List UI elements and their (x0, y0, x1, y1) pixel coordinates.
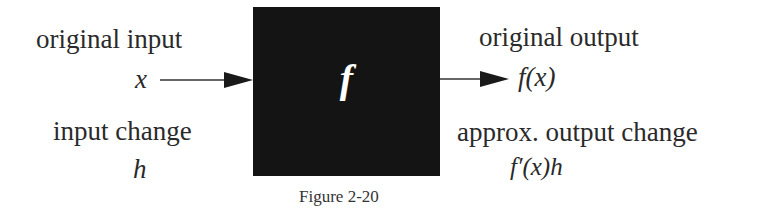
input-arrowhead-icon (224, 72, 253, 88)
figure-caption: Figure 2-20 (299, 188, 379, 205)
output-arrowhead-icon (480, 71, 509, 87)
output-symbol-fx: f(x) (518, 64, 555, 91)
function-box: f (253, 7, 440, 176)
output-change-symbol: f′(x)h (510, 154, 563, 179)
function-label: f (253, 55, 440, 102)
approx-output-change-label: approx. output change (457, 119, 698, 146)
original-output-label: original output (479, 24, 639, 51)
